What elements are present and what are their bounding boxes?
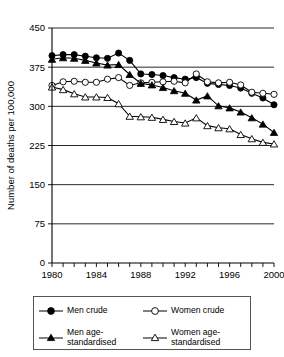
data-point-men-crude-1986 xyxy=(116,50,122,56)
data-point-women-age-standardised-1986 xyxy=(115,101,122,107)
data-point-men-age-standardised-1998 xyxy=(248,115,255,121)
data-point-women-crude-1991 xyxy=(171,78,177,84)
data-point-men-age-standardised-1997 xyxy=(237,109,244,115)
y-tick-label-300: 300 xyxy=(29,101,45,112)
legend-label-men-age-standardised: Men age-standardised xyxy=(67,328,142,347)
legend-item-men-crude: Men crude xyxy=(38,299,142,323)
data-point-men-age-standardised-1994 xyxy=(204,93,211,99)
chart-figure: 075150225300375450 198019841988199219962… xyxy=(0,0,284,357)
data-point-women-crude-1985 xyxy=(104,76,110,82)
data-point-women-crude-1998 xyxy=(249,89,255,95)
chart-plot-area: 075150225300375450 198019841988199219962… xyxy=(0,0,284,285)
y-tick-label-150: 150 xyxy=(29,179,45,190)
data-point-men-crude-1987 xyxy=(127,57,133,63)
y-axis-title: Number of deaths per 100,000 xyxy=(5,81,16,210)
data-point-women-crude-1993 xyxy=(193,71,199,77)
data-point-women-crude-1986 xyxy=(116,75,122,81)
data-point-men-crude-1989 xyxy=(149,71,155,77)
data-point-men-age-standardised-1991 xyxy=(170,87,177,93)
data-point-women-age-standardised-1993 xyxy=(193,115,200,121)
data-point-women-crude-1983 xyxy=(82,79,88,85)
data-point-women-age-standardised-1982 xyxy=(71,91,78,97)
legend-item-women-age-standardised: Women age-standardised xyxy=(142,323,254,353)
y-tick-label-75: 75 xyxy=(34,218,45,229)
data-point-men-crude-1985 xyxy=(104,55,110,61)
data-point-women-crude-1984 xyxy=(93,79,99,85)
data-point-women-crude-1981 xyxy=(60,79,66,85)
y-tick-label-375: 375 xyxy=(29,62,45,73)
y-tick-label-450: 450 xyxy=(29,22,45,33)
y-tick-label-225: 225 xyxy=(29,140,45,151)
data-point-women-crude-1994 xyxy=(204,79,210,85)
line-chart-svg: 075150225300375450 198019841988199219962… xyxy=(0,0,284,285)
data-point-men-crude-1988 xyxy=(138,71,144,77)
legend-item-men-age-standardised: Men age-standardised xyxy=(38,323,142,353)
x-tick-label-1980: 1980 xyxy=(41,269,62,280)
filled-circle-icon xyxy=(38,304,64,318)
y-tick-label-0: 0 xyxy=(40,257,45,268)
data-point-men-crude-1990 xyxy=(160,72,166,78)
data-series-group xyxy=(48,50,277,147)
series-men-age-standardised xyxy=(48,55,277,136)
x-tick-label-1988: 1988 xyxy=(130,269,151,280)
data-point-women-age-standardised-1997 xyxy=(237,131,244,137)
legend-item-women-crude: Women crude xyxy=(142,299,254,323)
legend-label-men-crude: Men crude xyxy=(67,306,108,316)
data-point-women-crude-1982 xyxy=(71,78,77,84)
data-point-women-crude-1992 xyxy=(182,80,188,86)
data-point-women-crude-1997 xyxy=(238,82,244,88)
data-point-men-age-standardised-1993 xyxy=(193,97,200,103)
data-point-women-age-standardised-1998 xyxy=(248,136,255,142)
data-point-men-crude-2000 xyxy=(271,102,277,108)
chart-legend: Men crude Women crude Men age-standardis… xyxy=(33,296,251,350)
x-tick-label-2000: 2000 xyxy=(263,269,284,280)
data-point-women-crude-1999 xyxy=(260,90,266,96)
x-tick-label-1984: 1984 xyxy=(86,269,107,280)
open-circle-icon xyxy=(142,304,168,318)
legend-label-women-age-standardised: Women age-standardised xyxy=(171,328,254,347)
data-point-women-crude-2000 xyxy=(271,91,277,97)
y-axis-ticks-group: 075150225300375450 xyxy=(29,22,52,268)
x-tick-label-1992: 1992 xyxy=(175,269,196,280)
data-point-women-crude-1995 xyxy=(215,80,221,86)
legend-label-women-crude: Women crude xyxy=(171,306,224,316)
x-axis-title: Year xyxy=(153,284,172,285)
data-point-men-age-standardised-1999 xyxy=(259,121,266,127)
open-triangle-icon xyxy=(142,331,168,345)
x-axis-ticks-group: 198019841988199219962000 xyxy=(41,263,284,280)
data-point-women-crude-1996 xyxy=(227,79,233,85)
data-point-women-crude-1987 xyxy=(127,82,133,88)
filled-triangle-icon xyxy=(38,331,64,345)
x-tick-label-1996: 1996 xyxy=(219,269,240,280)
